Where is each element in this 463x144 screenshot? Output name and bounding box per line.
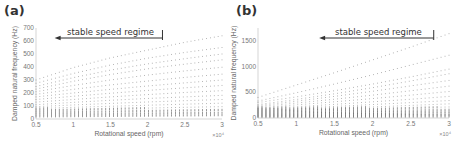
data-points — [36, 35, 223, 117]
chart-a: 01002003004005006007000.511.522.53×10⁴Ro… — [0, 0, 232, 144]
x-tick-label: 1.5 — [106, 121, 115, 128]
x-tick-label: 3 — [220, 121, 224, 128]
y-tick-label: 300 — [23, 76, 34, 83]
x-tick-label: 1.5 — [330, 120, 339, 127]
arrow-head-icon — [319, 36, 325, 40]
x-tick-label: 1 — [71, 121, 75, 128]
x-axis-label: Rotational speed (rpm) — [319, 129, 388, 137]
arrow-head-icon — [55, 36, 61, 40]
y-tick-label: 600 — [23, 37, 34, 44]
x-tick-label: 3 — [447, 120, 451, 127]
y-tick-label: 1500 — [242, 37, 257, 44]
y-tick-label: 200 — [23, 89, 34, 96]
x-tick-label: 2.5 — [180, 121, 189, 128]
y-tick-label: 500 — [23, 50, 34, 57]
chart-b: 0500100015000.511.522.53×10⁴Rotational s… — [232, 0, 463, 144]
y-axis-label: Damped natural frequency (Hz) — [230, 26, 238, 121]
y-tick-label: 100 — [23, 102, 34, 109]
annotation-text: stable speed regime — [67, 27, 154, 37]
panel-b: (b) 0500100015000.511.522.53×10⁴Rotation… — [232, 0, 463, 144]
y-axis-label: Damped natural frequency (Hz) — [11, 26, 19, 121]
y-tick-label: 500 — [245, 88, 256, 95]
annotation-text: stable speed regime — [335, 27, 422, 37]
x-tick-label: 0.5 — [31, 121, 40, 128]
y-tick-label: 700 — [23, 24, 34, 31]
x-tick-label: 0.5 — [253, 120, 262, 127]
data-points — [258, 33, 450, 118]
y-tick-label: 400 — [23, 63, 34, 70]
x-multiplier: ×10⁴ — [212, 132, 224, 138]
x-tick-label: 2 — [371, 120, 375, 127]
x-multiplier: ×10⁴ — [439, 131, 451, 137]
panel-a: (a) 01002003004005006007000.511.522.53×1… — [0, 0, 232, 144]
x-tick-label: 2 — [146, 121, 150, 128]
x-tick-label: 2.5 — [406, 120, 415, 127]
y-tick-label: 1000 — [242, 63, 257, 70]
figure: (a) 01002003004005006007000.511.522.53×1… — [0, 0, 463, 144]
x-tick-label: 1 — [294, 120, 298, 127]
x-axis-label: Rotational speed (rpm) — [94, 130, 163, 138]
